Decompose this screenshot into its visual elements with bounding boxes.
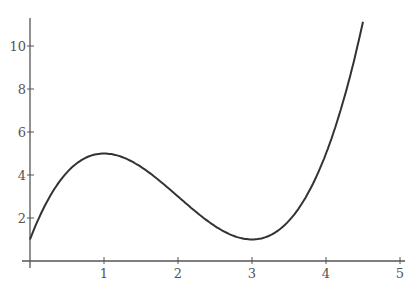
x-tick-label: 1 <box>100 266 108 281</box>
y-tick-label: 2 <box>18 211 26 226</box>
y-tick-label: 4 <box>18 168 26 183</box>
function-curve <box>30 22 363 240</box>
x-tick-label: 2 <box>174 266 182 281</box>
y-tick-label: 8 <box>18 82 26 97</box>
y-tick-label: 6 <box>18 125 26 140</box>
x-tick-label: 5 <box>396 266 404 281</box>
function-plot: 12345 246810 <box>0 0 410 289</box>
y-tick-label: 10 <box>9 39 26 54</box>
x-tick-label: 3 <box>248 266 256 281</box>
x-tick-label: 4 <box>322 266 330 281</box>
